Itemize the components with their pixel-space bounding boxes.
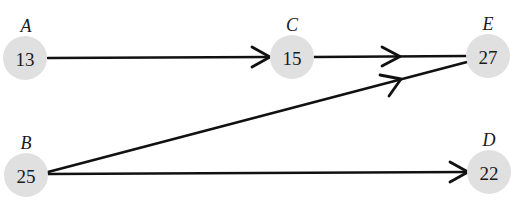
edge-a-c <box>48 47 270 67</box>
arrowhead-icon <box>380 75 401 96</box>
node-label: C <box>286 15 299 35</box>
node-value: 27 <box>479 47 498 68</box>
node-label: B <box>21 133 32 153</box>
node-d: D 22 <box>467 130 511 194</box>
edge-b-d <box>48 162 468 182</box>
node-value: 13 <box>16 49 35 70</box>
node-e: E 27 <box>466 14 510 78</box>
edge-c-e <box>314 47 466 66</box>
edge-b-e <box>48 62 467 172</box>
node-a: A 13 <box>3 16 47 80</box>
node-value: 25 <box>17 166 36 187</box>
node-label: D <box>482 130 496 150</box>
node-c: C 15 <box>270 15 314 79</box>
node-label: A <box>20 16 33 36</box>
graph-diagram: A 13 C 15 E 27 B 25 D 22 <box>0 0 516 201</box>
node-b: B 25 <box>4 133 48 197</box>
node-value: 22 <box>480 163 499 184</box>
node-label: E <box>482 14 494 34</box>
node-value: 15 <box>283 48 302 69</box>
